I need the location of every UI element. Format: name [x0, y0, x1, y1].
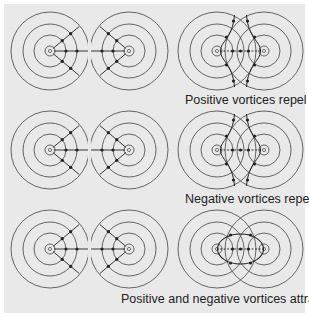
caption-negative-repel: Negative vortices repel: [185, 192, 309, 206]
caption-positive-repel: Positive vortices repel: [185, 93, 307, 107]
vortex-diagram: [0, 0, 309, 317]
caption-opposite-attract: Positive and negative vortices attract: [121, 292, 309, 306]
